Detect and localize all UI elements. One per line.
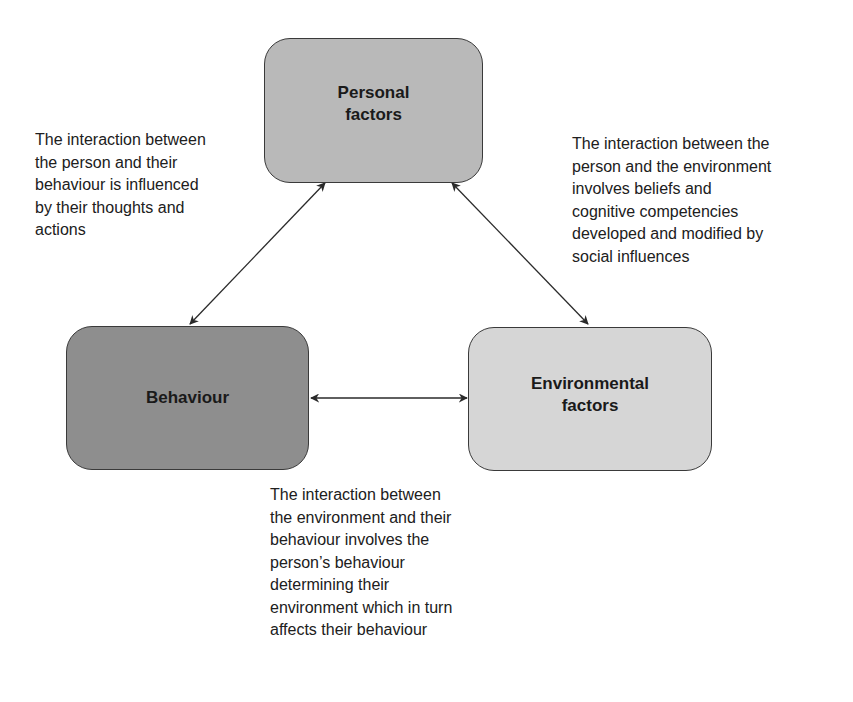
personal-factors-label-line1: Personal: [338, 82, 410, 104]
annotation-person-behaviour: The interaction between the person and t…: [35, 129, 265, 242]
personal-factors-label-line2: factors: [338, 104, 410, 126]
annotation-environment-behaviour: The interaction between the environment …: [270, 484, 530, 642]
behaviour-node: Behaviour: [66, 326, 309, 470]
environmental-factors-label-line1: Environmental: [531, 373, 649, 395]
annotation-person-environment: The interaction between the person and t…: [572, 133, 842, 268]
arrow-personal-environmental: [452, 183, 588, 324]
environmental-factors-node: Environmental factors: [468, 327, 712, 471]
personal-factors-node: Personal factors: [264, 38, 483, 183]
environmental-factors-label-line2: factors: [531, 395, 649, 417]
behaviour-label: Behaviour: [146, 387, 229, 409]
